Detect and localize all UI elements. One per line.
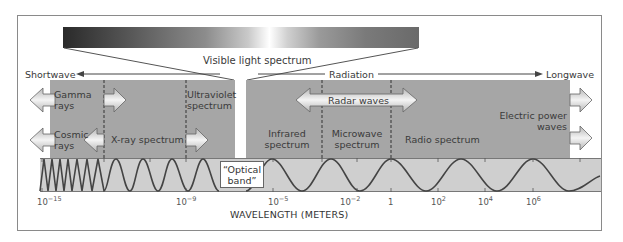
tick-label: 106 xyxy=(526,195,541,207)
tick-label: 10−5 xyxy=(268,195,288,207)
shortwave-label: Shortwave xyxy=(25,69,76,80)
tick-label: 104 xyxy=(478,195,493,207)
uv-line2: spectrum xyxy=(187,100,236,111)
cosmic-line1: Cosmic xyxy=(54,129,89,140)
infrared-line2: spectrum xyxy=(259,139,315,150)
electric-line2: waves xyxy=(490,121,567,132)
optical-band-line1: “Optical xyxy=(221,164,263,175)
visible-light-label: Visible light spectrum xyxy=(203,55,312,66)
cosmic-rays-label: Cosmic rays xyxy=(54,129,89,151)
cosmic-line2: rays xyxy=(54,140,89,151)
infrared-line1: Infrared xyxy=(259,128,315,139)
xray-spectrum-label: X-ray spectrum xyxy=(111,134,184,145)
microwave-spectrum-label: Microwave spectrum xyxy=(326,128,388,150)
electric-line1: Electric power xyxy=(490,110,567,121)
longwave-label: Longwave xyxy=(546,69,594,80)
tick-label: 102 xyxy=(431,195,446,207)
gamma-line2: rays xyxy=(54,100,92,111)
gamma-line1: Gamma xyxy=(54,89,92,100)
infrared-spectrum-label: Infrared spectrum xyxy=(259,128,315,150)
gamma-rays-label: Gamma rays xyxy=(54,89,92,111)
tick-label: 1 xyxy=(388,195,393,207)
microwave-line2: spectrum xyxy=(326,139,388,150)
tick-label: 10−2 xyxy=(340,195,360,207)
optical-band-label: “Optical band” xyxy=(220,161,264,188)
radar-waves-label: Radar waves xyxy=(328,95,389,106)
ultraviolet-spectrum-label: Ultraviolet spectrum xyxy=(187,89,236,111)
optical-band-line2: band” xyxy=(221,175,263,186)
tick-label: 10−9 xyxy=(176,195,196,207)
uv-line1: Ultraviolet xyxy=(187,89,236,100)
electric-power-waves-label: Electric power waves xyxy=(490,110,567,132)
radio-spectrum-label: Radio spectrum xyxy=(405,134,480,145)
tick-label: 10−15 xyxy=(37,195,62,207)
radiation-label: Radiation xyxy=(329,69,374,80)
microwave-line1: Microwave xyxy=(326,128,388,139)
axis-title: WAVELENGTH (METERS) xyxy=(230,209,349,220)
